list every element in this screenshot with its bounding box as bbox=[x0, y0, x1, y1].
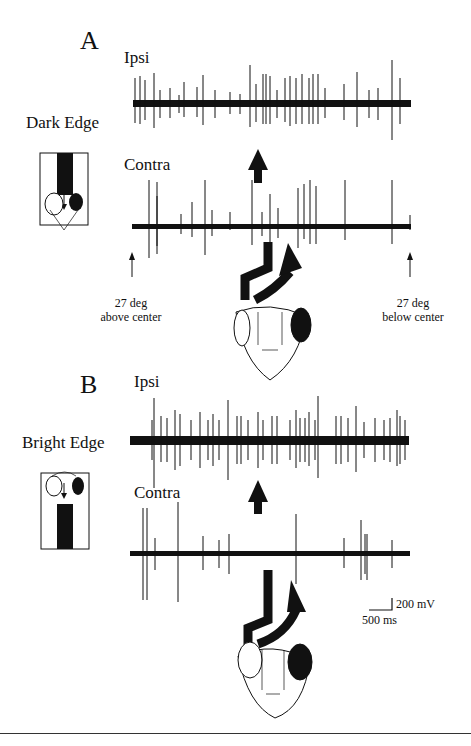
dark-edge-stimulus-icon bbox=[40, 153, 88, 230]
bright-edge-stimulus-icon bbox=[41, 472, 89, 549]
scale-bar bbox=[369, 598, 392, 610]
bottom-rule bbox=[0, 733, 471, 734]
panel-b-pathway-arrows-icon bbox=[248, 480, 306, 645]
panel-a-wasp-head-icon bbox=[234, 307, 311, 380]
trace-b-ipsi bbox=[130, 396, 409, 488]
figure-graphics bbox=[0, 0, 471, 746]
panel-b-wasp-head-icon bbox=[238, 642, 312, 718]
trace-a-ipsi bbox=[133, 60, 411, 140]
